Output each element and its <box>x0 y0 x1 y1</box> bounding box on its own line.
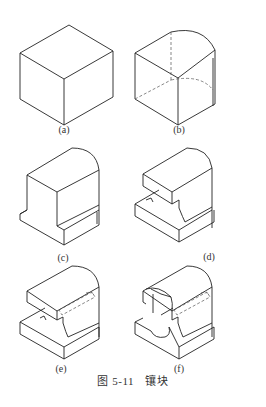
subfigure-e: (e) <box>0 265 133 380</box>
stepped-block-drawing <box>0 130 133 260</box>
subfigure-c: (c) <box>0 130 133 260</box>
subfigure-b: (b) <box>133 0 266 130</box>
slotted-block-drawing <box>133 130 266 260</box>
subfigure-f: (f) <box>133 265 266 380</box>
subfigure-d: (d) <box>133 130 266 260</box>
cutout-block-drawing <box>133 265 266 380</box>
subfigure-a: (a) <box>0 0 133 130</box>
rounded-block-drawing <box>133 0 266 130</box>
figure-caption: 图 5-11 镶块 <box>0 372 266 388</box>
caption-d: (d) <box>194 251 224 262</box>
caption-c: (c) <box>48 252 78 263</box>
cube-drawing <box>0 0 133 130</box>
